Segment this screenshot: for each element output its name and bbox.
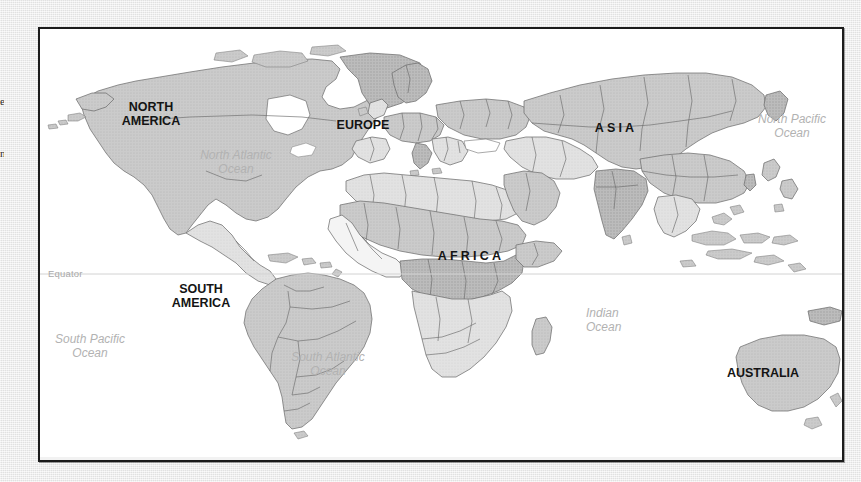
page-edge-fragment: e <box>0 96 4 107</box>
world-map-figure: .land { fill:url(#halftone); stroke:#6f6… <box>38 27 844 462</box>
antarctic-edge <box>40 457 842 460</box>
page-edge-fragment: n <box>0 148 4 159</box>
world-map-graphic: .land { fill:url(#halftone); stroke:#6f6… <box>40 29 842 460</box>
